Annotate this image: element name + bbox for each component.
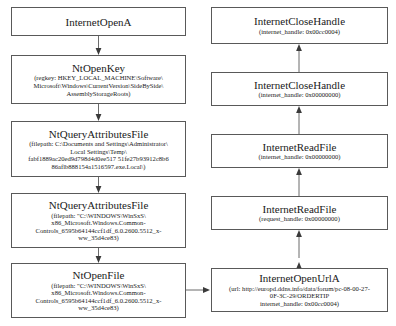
node-nt-open-key[interactable]: NtOpenKey (regkey: HKEY_LOCAL_MACHINE\So… — [11, 55, 186, 104]
node-params: (filepath: C:\Documents and Settings\Adm… — [27, 140, 169, 170]
node-internet-read-file-request[interactable]: InternetReadFile (request_handle: 0x0000… — [211, 196, 388, 230]
node-title: NtQueryAttributesFile — [49, 128, 149, 140]
node-params: (internet_handle: 0x00000000) — [258, 153, 342, 161]
node-title: NtOpenKey — [72, 62, 125, 74]
node-params: (request_handle: 0x00000000) — [258, 215, 341, 223]
node-title: InternetCloseHandle — [254, 15, 345, 27]
node-title: InternetCloseHandle — [254, 79, 345, 91]
node-title: NtQueryAttributesFile — [49, 199, 149, 211]
node-internet-close-handle-cc[interactable]: InternetCloseHandle (internet_handle: 0x… — [211, 7, 388, 44]
diagram-canvas: InternetOpenA NtOpenKey (regkey: HKEY_LO… — [0, 0, 396, 326]
node-title: InternetReadFile — [263, 203, 337, 215]
node-params: (url: http://europd.ddns.info/data/forum… — [228, 285, 371, 308]
node-title: NtOpenFile — [73, 269, 125, 281]
node-params: (internet_handle: 0x00cc0004) — [258, 28, 341, 36]
node-internet-read-file-internet[interactable]: InternetReadFile (internet_handle: 0x000… — [211, 134, 388, 168]
node-internet-open-url-a[interactable]: InternetOpenUrlA (url: http://europd.ddn… — [211, 268, 388, 312]
node-nt-query-attributes-file-winsxs[interactable]: NtQueryAttributesFile (filepath: "C:\WIN… — [11, 193, 186, 248]
node-nt-query-attributes-file-temp[interactable]: NtQueryAttributesFile (filepath: C:\Docu… — [11, 121, 186, 177]
node-internet-close-handle-zero[interactable]: InternetCloseHandle (internet_handle: 0x… — [211, 72, 388, 106]
node-nt-open-file[interactable]: NtOpenFile (filepath: "C:\WINDOWS\WinSxS… — [11, 263, 186, 318]
node-title: InternetReadFile — [263, 141, 337, 153]
node-params: (filepath: "C:\WINDOWS\WinSxS\ x86_Micro… — [35, 212, 163, 242]
node-title: InternetOpenUrlA — [259, 272, 340, 284]
node-params: (internet_handle: 0x00000000) — [258, 91, 342, 99]
node-params: (regkey: HKEY_LOCAL_MACHINE\Software\ Mi… — [33, 74, 165, 97]
node-internet-open-a[interactable]: InternetOpenA — [11, 7, 186, 36]
node-title: InternetOpenA — [66, 16, 132, 28]
node-params: (filepath: "C:\WINDOWS\WinSxS\ x86_Micro… — [35, 282, 163, 312]
